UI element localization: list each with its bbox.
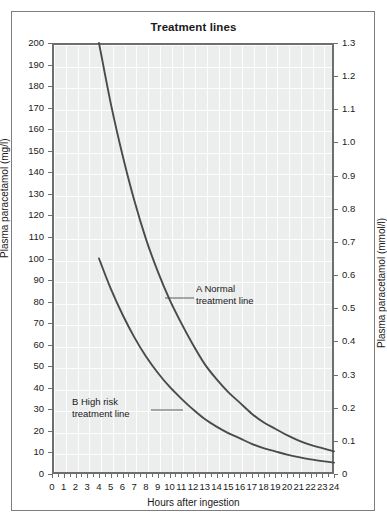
annotation-b-line1: B High risk: [72, 396, 130, 408]
x-axis-tick: [240, 474, 241, 478]
y-axis-right-tick-label: 1.2: [342, 71, 355, 81]
annotation-a-line2: treatment line: [196, 295, 254, 307]
x-axis-tick: [146, 474, 147, 478]
y-axis-left-tick: [48, 409, 52, 410]
y-axis-right-tick: [334, 408, 338, 409]
gridline-horizontal: [54, 261, 332, 262]
x-axis-tick: [205, 474, 206, 478]
x-axis-tick: [76, 474, 77, 478]
x-axis-tick-label: 6: [120, 482, 125, 492]
y-axis-left-tick-label: 160: [0, 124, 44, 134]
x-axis-tick-label: 4: [96, 482, 101, 492]
x-axis-tick: [158, 474, 159, 478]
y-axis-right-tick: [334, 43, 338, 44]
gridline-horizontal: [54, 347, 332, 348]
y-axis-left-tick: [48, 323, 52, 324]
gridline-horizontal: [54, 174, 332, 175]
annotation-a-line1: A Normal: [196, 283, 254, 295]
x-axis-minor-tick: [222, 474, 223, 477]
y-axis-left-tick-label: 170: [0, 103, 44, 113]
x-axis-tick-label: 5: [108, 482, 113, 492]
y-axis-right-tick: [334, 242, 338, 243]
x-axis-tick: [287, 474, 288, 478]
gridline-horizontal: [54, 196, 332, 197]
y-axis-right-tick-label: 1.0: [342, 138, 355, 148]
y-axis-left-tick-label: 70: [0, 318, 44, 328]
x-axis-minor-tick: [328, 474, 329, 477]
x-axis-minor-tick: [175, 474, 176, 477]
x-axis-minor-tick: [246, 474, 247, 477]
x-axis-tick-label: 0: [49, 482, 54, 492]
x-axis-tick: [181, 474, 182, 478]
y-axis-left-tick: [48, 86, 52, 87]
gridline-horizontal: [54, 110, 332, 111]
x-axis-minor-tick: [105, 474, 106, 477]
x-axis-tick: [311, 474, 312, 478]
y-axis-left-tick: [48, 215, 52, 216]
x-axis-tick-label: 16: [235, 482, 246, 492]
x-axis-tick-label: 13: [199, 482, 210, 492]
y-axis-left-tick: [48, 366, 52, 367]
x-axis-tick: [334, 474, 335, 478]
y-axis-left-title: Plasma paracetamol (mg/l): [0, 139, 10, 258]
x-axis-tick: [111, 474, 112, 478]
x-axis-tick: [252, 474, 253, 478]
annotation-b-line2: treatment line: [72, 408, 130, 420]
annotation-high-risk-treatment-line: B High risk treatment line: [72, 396, 130, 420]
y-axis-left-tick: [48, 388, 52, 389]
x-axis-tick-label: 23: [317, 482, 328, 492]
y-axis-right-tick-label: 1.3: [342, 38, 355, 48]
y-axis-right-tick: [334, 341, 338, 342]
x-axis-tick-label: 15: [223, 482, 234, 492]
y-axis-left-tick-label: 40: [0, 383, 44, 393]
y-axis-right-tick: [334, 375, 338, 376]
x-axis-minor-tick: [293, 474, 294, 477]
x-axis-tick-label: 20: [282, 482, 293, 492]
gridline-horizontal: [54, 454, 332, 455]
y-axis-left-tick: [48, 172, 52, 173]
y-axis-right-tick-label: 0.7: [342, 237, 355, 247]
x-axis-title: Hours after ingestion: [0, 497, 387, 508]
y-axis-left-tick: [48, 237, 52, 238]
y-axis-right-tick: [334, 209, 338, 210]
y-axis-right-tick-label: 0: [342, 469, 347, 479]
x-axis-tick: [275, 474, 276, 478]
x-axis-minor-tick: [164, 474, 165, 477]
x-axis-tick: [228, 474, 229, 478]
x-axis-minor-tick: [128, 474, 129, 477]
y-axis-left-tick: [48, 108, 52, 109]
y-axis-left-tick-label: 10: [0, 448, 44, 458]
gridline-horizontal: [54, 217, 332, 218]
y-axis-left-tick: [48, 302, 52, 303]
x-axis-tick-label: 2: [73, 482, 78, 492]
y-axis-right-tick-label: 0.2: [342, 403, 355, 413]
y-axis-right-title: Plasma paracetamol (mmol/l): [376, 218, 387, 348]
y-axis-right-tick: [334, 76, 338, 77]
x-axis-tick-label: 10: [164, 482, 175, 492]
gridline-horizontal: [54, 45, 332, 46]
chart-title: Treatment lines: [0, 21, 387, 33]
x-axis-tick: [99, 474, 100, 478]
gridline-horizontal: [54, 304, 332, 305]
x-axis-minor-tick: [187, 474, 188, 477]
y-axis-right-tick-label: 0.6: [342, 270, 355, 280]
x-axis-tick-label: 22: [305, 482, 316, 492]
x-axis-tick: [217, 474, 218, 478]
x-axis-minor-tick: [269, 474, 270, 477]
x-axis-minor-tick: [211, 474, 212, 477]
y-axis-right-tick: [334, 275, 338, 276]
y-axis-left-tick-label: 50: [0, 362, 44, 372]
x-axis-tick-label: 24: [329, 482, 340, 492]
y-axis-left-tick-label: 80: [0, 297, 44, 307]
x-axis-minor-tick: [152, 474, 153, 477]
y-axis-right-tick: [334, 308, 338, 309]
y-axis-left-tick: [48, 151, 52, 152]
x-axis-tick-label: 8: [143, 482, 148, 492]
x-axis-tick: [322, 474, 323, 478]
x-axis-tick-label: 17: [246, 482, 257, 492]
y-axis-left-tick: [48, 65, 52, 66]
x-axis-minor-tick: [316, 474, 317, 477]
x-axis-tick: [123, 474, 124, 478]
x-axis-tick: [87, 474, 88, 478]
y-axis-right-tick-label: 0.1: [342, 436, 355, 446]
